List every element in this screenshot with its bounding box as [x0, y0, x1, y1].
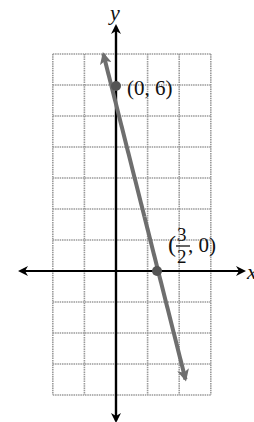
coordinate-graph: y x (0, 6) ( 3 2 , 0)	[0, 0, 254, 422]
svg-text:, 0): , 0)	[188, 233, 216, 257]
y-intercept-label: (0, 6)	[127, 76, 173, 100]
x-axis-label: x	[246, 259, 254, 284]
y-axis-label: y	[108, 0, 120, 25]
fraction-denominator: 2	[177, 246, 187, 267]
fraction-numerator: 3	[177, 224, 187, 245]
svg-text:(: (	[168, 231, 176, 257]
grid	[53, 54, 211, 395]
point-y-intercept	[111, 81, 121, 91]
point-x-intercept	[152, 266, 162, 276]
x-intercept-label: ( 3 2 , 0)	[168, 224, 216, 267]
